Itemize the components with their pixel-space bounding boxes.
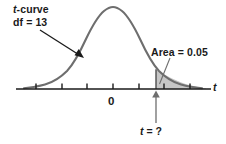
degrees-of-freedom-label: df = 13 <box>13 17 49 29</box>
curve-label-line1-rest: -curve <box>17 3 49 15</box>
origin-tick-label: 0 <box>108 95 114 108</box>
t-distribution-figure: t-curve df = 13 Area = 0.05 0 t t = ? <box>0 0 226 144</box>
curve-label-line1: t-curve <box>13 3 49 15</box>
unknown-value-rest: = ? <box>144 125 162 137</box>
curve-callout-arrow <box>40 30 84 58</box>
unknown-critical-value-label: t = ? <box>140 126 162 138</box>
axis-label-t: t <box>213 82 217 94</box>
critical-value-arrow <box>152 91 160 124</box>
area-annotation-label: Area = 0.05 <box>151 47 208 59</box>
curve-label: t-curve df = 13 <box>13 4 49 29</box>
